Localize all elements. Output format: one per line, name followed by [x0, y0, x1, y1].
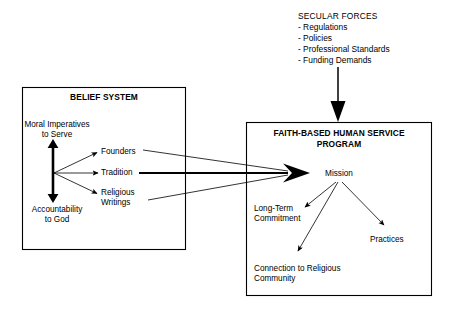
secular-forces-item-professional-standards: - Professional Standards [298, 44, 390, 55]
accountability-label-line1: Accountability [32, 205, 83, 215]
belief-system-heading: BELIEF SYSTEM [70, 92, 138, 102]
belief-axis-double-arrow [48, 139, 59, 203]
secular-forces-item-policies: - Policies [298, 33, 332, 44]
moral-imperatives-label-line1: Moral Imperatives [24, 120, 89, 130]
program-heading-line2: PROGRAM [317, 139, 361, 149]
moral-imperatives-label-line2: to Serve [42, 130, 73, 140]
secular-forces-arrow [331, 67, 346, 122]
channel-label-religious: Religious [101, 188, 135, 198]
channel-label-writings: Writings [101, 198, 130, 208]
outcome-long-term-commitment-line1: Long-Term [254, 204, 293, 214]
channel-label-founders: Founders [101, 147, 136, 157]
secular-forces-item-funding-demands: - Funding Demands [298, 55, 372, 66]
secular-forces-item-regulations: - Regulations [298, 22, 347, 33]
channel-label-tradition: Tradition [101, 168, 133, 178]
accountability-label-line2: to God [45, 215, 70, 225]
mission-node-label: Mission [325, 169, 353, 179]
channel-convergence-lines [139, 150, 310, 200]
outcome-practices: Practices [370, 235, 404, 245]
outcome-connection-religious-community-line1: Connection to Religious [254, 264, 340, 274]
secular-forces-heading: SECULAR FORCES [298, 11, 378, 21]
program-heading-line1: FAITH-BASED HUMAN SERVICE [273, 128, 404, 138]
belief-branch-lines [54, 153, 98, 194]
diagram-canvas: SECULAR FORCES - Regulations - Policies … [0, 0, 451, 319]
outcome-connection-religious-community-line2: Community [254, 274, 295, 284]
outcome-long-term-commitment-line2: Commitment [254, 214, 300, 224]
